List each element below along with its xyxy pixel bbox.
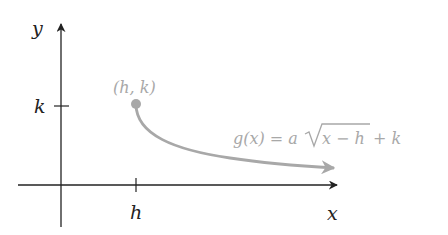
function-label-radicand: x − h [322,129,365,148]
y-axis-label: y [31,17,43,39]
function-graph: y x x k h (h, k) g(x) = a x − h + k [0,0,448,235]
function-label-suffix: + k [368,129,401,148]
vertex-point [131,99,141,109]
y-tick-label: k [34,95,46,117]
x-axis-label-text: x [327,202,338,224]
x-tick-label: h [130,201,142,223]
function-label-prefix: g(x) = a [233,129,298,148]
vertex-label: (h, k) [113,78,156,97]
